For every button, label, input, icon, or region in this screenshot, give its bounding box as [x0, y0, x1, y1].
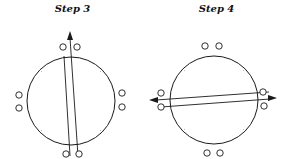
step-4-markers: [158, 43, 267, 156]
arrow-left-icon: [149, 97, 158, 103]
step-3-panel: Step 3: [0, 0, 145, 159]
arrow-right-icon: [268, 95, 277, 101]
step-4-circle: [170, 56, 258, 144]
step-4-panel: Step 4: [144, 0, 289, 159]
step-3-circle: [27, 57, 115, 145]
step-4-line-bottom: [161, 99, 270, 107]
step-3-line-left: [64, 56, 70, 156]
arrow-up-icon: [67, 31, 73, 40]
step-4-line-top: [156, 92, 269, 100]
step-3-diagram: [0, 0, 145, 159]
step-4-diagram: [144, 0, 289, 159]
step-3-line-right: [70, 38, 78, 156]
step-3-markers: [16, 44, 125, 157]
